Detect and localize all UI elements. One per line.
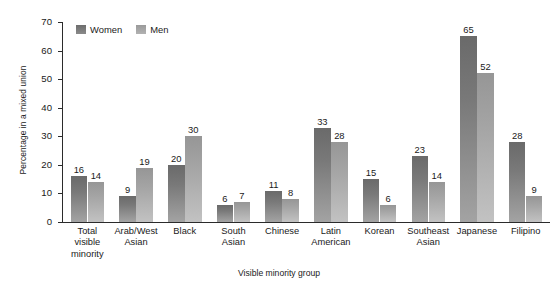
bar-value-label: 6 [385, 193, 390, 204]
legend-item-women: Women [76, 24, 122, 35]
bar-value-label: 11 [269, 179, 279, 190]
bar-men[interactable]: 8 [282, 199, 299, 222]
bar-men[interactable]: 7 [234, 202, 251, 222]
y-tick-label: 0 [22, 216, 52, 227]
x-category-line: Asian [106, 237, 167, 248]
x-category-line: Filipino [495, 226, 556, 237]
bar-value-label: 9 [532, 184, 537, 195]
bar-women[interactable]: 28 [509, 142, 526, 222]
bar-women[interactable]: 23 [412, 156, 429, 222]
bar-men[interactable]: 6 [380, 205, 397, 222]
x-axis-line [62, 222, 550, 223]
bar-value-label: 20 [171, 153, 181, 164]
legend-label-men: Men [150, 24, 168, 35]
bar-group: 1614 [71, 18, 105, 222]
x-axis-title: Visible minority group [0, 268, 558, 278]
bar-group: 919 [119, 18, 153, 222]
bar-men[interactable]: 19 [136, 168, 153, 222]
bar-women[interactable]: 9 [119, 196, 136, 222]
legend-item-men: Men [136, 24, 168, 35]
x-axis-category-labels: TotalvisibleminorityArab/WestAsianBlackS… [63, 226, 550, 272]
bar-group: 156 [363, 18, 397, 222]
bar-women[interactable]: 33 [314, 128, 331, 222]
bar-group: 289 [509, 18, 543, 222]
bar-value-label: 28 [512, 130, 522, 141]
bar-group: 67 [217, 18, 251, 222]
bar-men[interactable]: 14 [88, 182, 105, 222]
bar-value-label: 23 [415, 144, 425, 155]
y-tick-50: 50 [58, 79, 62, 80]
y-tick-70: 70 [58, 22, 62, 23]
y-tick-0: 0 [58, 222, 62, 223]
y-tick-label: 10 [22, 187, 52, 198]
x-category-line: Asian [203, 237, 264, 248]
bar-groups: 1614919203067118332815623146552289 [63, 18, 550, 222]
bar-men[interactable]: 9 [526, 196, 543, 222]
bar-value-label: 52 [480, 61, 490, 72]
bar-value-label: 33 [317, 116, 327, 127]
plot-area: 010203040506070 161491920306711833281562… [62, 18, 550, 222]
bar-men[interactable]: 52 [477, 73, 494, 222]
legend: Women Men [76, 24, 168, 35]
bar-value-label: 65 [463, 24, 473, 35]
bar-value-label: 6 [222, 193, 227, 204]
bar-value-label: 14 [91, 170, 101, 181]
bar-value-label: 19 [139, 156, 149, 167]
legend-swatch-women-icon [76, 25, 86, 34]
y-tick-label: 30 [22, 130, 52, 141]
bar-men[interactable]: 14 [429, 182, 446, 222]
legend-swatch-men-icon [136, 25, 146, 34]
bar-women[interactable]: 16 [71, 176, 88, 222]
bar-men[interactable]: 30 [185, 136, 202, 222]
y-tick-label: 60 [22, 45, 52, 56]
x-category-line: Asian [398, 237, 459, 248]
x-category-line: minority [57, 249, 118, 260]
y-tick-label: 50 [22, 73, 52, 84]
bar-men[interactable]: 28 [331, 142, 348, 222]
y-tick-10: 10 [58, 193, 62, 194]
bar-group: 3328 [314, 18, 348, 222]
x-category-line: American [301, 237, 362, 248]
bar-group: 2314 [412, 18, 446, 222]
y-tick-60: 60 [58, 51, 62, 52]
legend-label-women: Women [90, 24, 122, 35]
y-tick-30: 30 [58, 136, 62, 137]
bar-women[interactable]: 20 [168, 165, 185, 222]
y-tick-label: 40 [22, 102, 52, 113]
bar-women[interactable]: 6 [217, 205, 234, 222]
bar-value-label: 14 [432, 170, 442, 181]
bar-value-label: 8 [288, 187, 293, 198]
bar-women[interactable]: 11 [265, 191, 282, 222]
y-tick-20: 20 [58, 165, 62, 166]
bar-women[interactable]: 65 [460, 36, 477, 222]
bar-group: 2030 [168, 18, 202, 222]
bar-value-label: 15 [366, 167, 376, 178]
bar-women[interactable]: 15 [363, 179, 380, 222]
bar-value-label: 30 [188, 124, 198, 135]
y-tick-label: 20 [22, 159, 52, 170]
bar-group: 6552 [460, 18, 494, 222]
x-category-label: Filipino [495, 226, 556, 237]
bar-group: 118 [265, 18, 299, 222]
bar-value-label: 28 [334, 130, 344, 141]
bar-value-label: 7 [239, 190, 244, 201]
bar-value-label: 9 [125, 184, 130, 195]
bar-value-label: 16 [74, 164, 84, 175]
y-tick-label: 70 [22, 16, 52, 27]
bar-chart: Percentage in a mixed union 010203040506… [0, 0, 558, 288]
y-tick-40: 40 [58, 108, 62, 109]
